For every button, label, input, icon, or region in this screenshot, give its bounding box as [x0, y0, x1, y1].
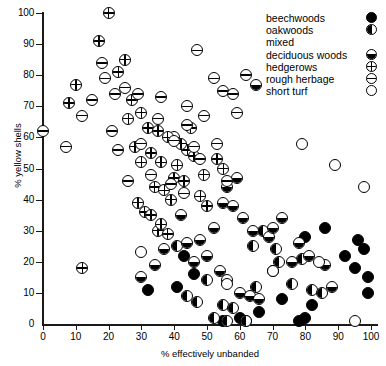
data-point: [135, 156, 147, 168]
data-point: [112, 144, 124, 156]
data-point: [201, 200, 213, 212]
legend-item-bottom-half-filled-circle-icon: [366, 49, 377, 60]
data-point: [145, 169, 157, 181]
data-point: [135, 107, 147, 119]
data-point: [227, 88, 239, 100]
data-point: [168, 135, 180, 147]
legend-item-label: short turf: [266, 86, 307, 97]
data-point: [60, 141, 72, 153]
data-point: [188, 141, 200, 153]
data-point: [358, 243, 370, 255]
data-point: [194, 153, 206, 165]
data-point: [247, 225, 259, 237]
data-point: [221, 278, 233, 290]
y-tick-label: 30: [4, 226, 34, 236]
legend-item-label: beechwoods: [266, 13, 325, 24]
y-tick-mark: [36, 231, 42, 232]
y-tick-mark: [36, 13, 42, 14]
data-point: [188, 256, 200, 268]
data-point: [326, 281, 338, 293]
y-tick-mark: [36, 262, 42, 263]
data-point: [227, 200, 239, 212]
y-tick-label-wrap: 90: [0, 39, 34, 49]
data-point: [217, 163, 229, 175]
x-tick-label: 20: [94, 331, 124, 342]
x-tick-label: 0: [28, 331, 58, 342]
data-point: [162, 228, 174, 240]
data-point: [319, 222, 331, 234]
data-point: [267, 222, 279, 234]
y-tick-mark: [36, 106, 42, 107]
data-point: [158, 243, 170, 255]
x-tick-mark: [76, 325, 77, 330]
scatter-plot-figure: 0102030405060708090100 01020304050607080…: [0, 0, 386, 366]
data-point: [181, 100, 193, 112]
data-point: [135, 271, 147, 283]
data-point: [119, 54, 131, 66]
x-axis-line: [42, 324, 378, 326]
data-point: [293, 237, 305, 249]
data-point: [349, 315, 361, 327]
data-point: [247, 240, 259, 252]
data-point: [76, 262, 88, 274]
data-point: [362, 287, 374, 299]
y-tick-label-wrap: 30: [0, 226, 34, 236]
legend-item: short turf: [266, 85, 386, 98]
data-point: [208, 72, 220, 84]
data-point: [122, 175, 134, 187]
data-point: [221, 175, 233, 187]
data-point: [122, 113, 134, 125]
y-tick-label-wrap: 20: [0, 257, 34, 267]
y-tick-label-wrap: 10: [0, 288, 34, 298]
data-point: [188, 268, 200, 280]
data-point: [349, 262, 361, 274]
legend-item: beechwoods: [266, 12, 386, 25]
data-point: [276, 212, 288, 224]
y-tick-mark: [36, 137, 42, 138]
data-point: [237, 212, 249, 224]
data-point: [286, 256, 298, 268]
data-point: [253, 293, 265, 305]
data-point: [208, 222, 220, 234]
data-point: [296, 138, 308, 150]
data-point: [194, 234, 206, 246]
y-tick-label: 10: [4, 288, 34, 298]
legend-item-open-circle-icon: [366, 85, 377, 96]
data-point: [112, 66, 124, 78]
data-point: [191, 44, 203, 56]
legend-item-label: mixed: [266, 37, 294, 48]
data-point: [165, 178, 177, 190]
data-point: [270, 243, 282, 255]
legend-item: mixed: [266, 36, 386, 49]
legend-item-filled-circle-icon: [366, 12, 377, 23]
y-tick-mark: [36, 169, 42, 170]
data-point: [329, 159, 341, 171]
data-point: [362, 271, 374, 283]
x-tick-mark: [371, 325, 372, 330]
y-tick-mark: [36, 75, 42, 76]
data-point: [119, 82, 131, 94]
y-axis-label: % yellow shells: [12, 111, 23, 201]
data-point: [178, 187, 190, 199]
data-point: [37, 125, 49, 137]
data-point: [221, 315, 233, 327]
data-point: [93, 35, 105, 47]
data-point: [175, 209, 187, 221]
data-point: [76, 110, 88, 122]
data-point: [135, 246, 147, 258]
data-point: [155, 91, 167, 103]
data-point: [299, 312, 311, 324]
legend-item-label: oakwoods: [266, 25, 313, 36]
x-tick-label: 50: [192, 331, 222, 342]
data-point: [198, 169, 210, 181]
x-tick-label: 10: [61, 331, 91, 342]
y-tick-label-wrap: 100: [0, 8, 34, 18]
x-tick-label: 100: [356, 331, 386, 342]
x-tick-mark: [43, 325, 44, 330]
y-tick-mark: [36, 44, 42, 45]
data-point: [178, 175, 190, 187]
legend-item-label: rough herbage: [266, 74, 334, 85]
legend-item: rough herbage: [266, 73, 386, 86]
x-tick-mark: [207, 325, 208, 330]
y-tick-label: 90: [4, 39, 34, 49]
